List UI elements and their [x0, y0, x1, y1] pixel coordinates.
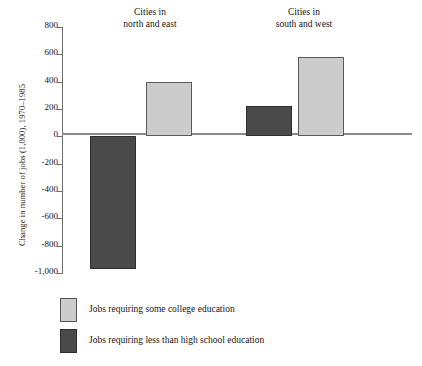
bar-chart: Cities in north and east Cities in south… — [0, 0, 422, 366]
bar — [146, 82, 192, 137]
legend-swatch — [60, 329, 77, 353]
y-tick-label: 400 — [45, 75, 59, 85]
legend-item: Jobs requiring less than high school edu… — [60, 327, 390, 358]
y-tick-label: -200 — [42, 157, 59, 167]
y-axis-spine — [62, 27, 63, 273]
y-tick-label: -600 — [42, 211, 59, 221]
legend-label: Jobs requiring some college education — [89, 304, 235, 314]
y-tick-label: -400 — [42, 184, 59, 194]
y-tick-label: -1,000 — [35, 266, 58, 276]
y-tick-label: 600 — [45, 47, 59, 57]
bar — [246, 106, 292, 136]
y-tick-label: -800 — [42, 239, 59, 249]
y-axis-label: Change in number of jobs (1,000), 1970–1… — [17, 50, 27, 280]
bar — [90, 136, 136, 269]
legend-swatch — [60, 298, 77, 322]
legend-item: Jobs requiring some college education — [60, 296, 390, 327]
plot-area: 8006004002000-200-400-600-800-1,000 — [62, 27, 412, 273]
y-tick-label: 0 — [54, 129, 59, 139]
y-tick-label: 200 — [45, 102, 59, 112]
y-tick-label: 800 — [45, 20, 59, 30]
zero-baseline — [62, 133, 412, 135]
bar — [298, 57, 344, 136]
legend-label: Jobs requiring less than high school edu… — [89, 335, 264, 345]
legend: Jobs requiring some college educationJob… — [60, 296, 390, 358]
